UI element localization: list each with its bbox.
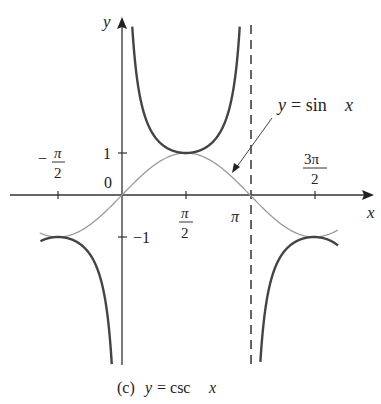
- svg-text:π: π: [181, 205, 189, 221]
- svg-text:2: 2: [311, 171, 319, 187]
- csc-curve-right: [260, 237, 338, 362]
- svg-text:= csc: = csc: [157, 379, 190, 396]
- svg-text:(c): (c): [117, 379, 135, 397]
- svg-text:−: −: [38, 150, 47, 167]
- csc-curve-middle: [132, 27, 239, 153]
- svg-text:3π: 3π: [304, 151, 320, 167]
- sin-annotation-label: y = sin x: [276, 95, 353, 115]
- svg-text:2: 2: [54, 165, 62, 181]
- svg-text:y: y: [276, 95, 286, 115]
- csc-curve-left: [41, 237, 112, 364]
- svg-text:π: π: [54, 145, 62, 161]
- x-axis-label: x: [366, 203, 375, 222]
- chart-caption: (c) y = csc x: [117, 379, 216, 397]
- y-tick-1-label: 1: [103, 145, 111, 162]
- origin-label: 0: [104, 174, 112, 191]
- svg-text:= sin: = sin: [291, 95, 327, 115]
- svg-text:y: y: [143, 379, 153, 397]
- svg-text:2: 2: [181, 225, 189, 241]
- y-tick-neg1-label: −1: [133, 229, 150, 246]
- x-tick-neg-pi-half-label: − π 2: [38, 145, 65, 181]
- x-tick-pi-label: π: [231, 208, 240, 225]
- x-tick-pi-half-label: π 2: [179, 205, 193, 241]
- x-tick-3pi-half-label: 3π 2: [303, 151, 327, 187]
- svg-text:x: x: [208, 379, 216, 396]
- annotation-arrow: [236, 118, 272, 168]
- y-axis-label: y: [101, 12, 111, 31]
- csc-chart: y x 0 1 −1 − π 2 π 2 π 3π 2 y = sin x (c…: [0, 0, 381, 404]
- svg-text:x: x: [344, 95, 353, 115]
